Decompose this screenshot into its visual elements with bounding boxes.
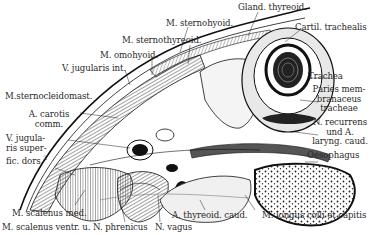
label-m-sternocleidomast: M.sternocleidomast. <box>5 92 92 102</box>
label-m-sternothyreoid: M. sternothyreoid. <box>122 36 201 46</box>
label-a-thyreoid-caud: A. thyreoid. caud. <box>172 211 248 221</box>
anatomical-figure: Gland. thyreoid. M. sternohyoid. Cartil.… <box>0 0 372 235</box>
label-oesophagus: Oesophagus <box>307 151 359 161</box>
label-v-jugularis-superfic: V. jugula- ris super- fic. dors.2 <box>6 134 47 166</box>
label-m-omohyoid: M. omohyoid. <box>100 51 158 61</box>
label-m-longus-colli: M. longus colli et capitis <box>262 211 366 221</box>
label-v-jugularis-int: V. jugularis int. <box>62 64 126 74</box>
label-a-carotis-comm: A. carotis comm. <box>20 110 78 129</box>
label-n-recurrens: N. recurrens und A. laryng. caud. <box>308 118 372 147</box>
label-m-sternohyoid: M. sternohyoid. <box>166 19 233 29</box>
label-trachea: Trachea <box>308 72 343 82</box>
label-cartil-trachealis: Cartil. trachealis <box>295 23 367 33</box>
label-n-vagus: N. vagus <box>155 223 192 233</box>
label-m-scalenus-med: M. scalenus med. <box>12 209 87 219</box>
label-gland-thyreoid: Gland. thyreoid. <box>238 3 307 13</box>
label-paries-membranaceus: Paries mem- branaceus tracheae <box>307 85 371 114</box>
label-m-scalenus-ventr: M. scalenus ventr. u. N. phrenicus <box>2 223 148 233</box>
